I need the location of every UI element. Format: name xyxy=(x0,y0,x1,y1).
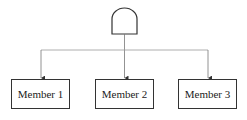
member-2-box: Member 2 xyxy=(95,79,154,109)
member-1-label: Member 1 xyxy=(18,88,64,100)
member-2-label: Member 2 xyxy=(102,88,148,100)
member-3-box: Member 3 xyxy=(178,79,237,109)
member-1-box: Member 1 xyxy=(11,79,70,109)
member-3-label: Member 3 xyxy=(185,88,231,100)
and-gate-icon xyxy=(112,8,137,34)
